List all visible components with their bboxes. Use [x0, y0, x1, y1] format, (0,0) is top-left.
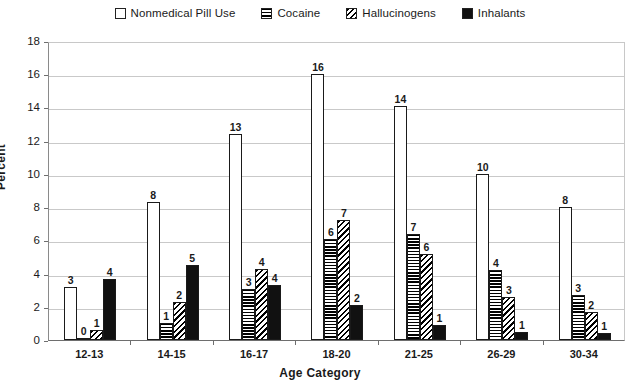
y-axis-title: Percent	[0, 144, 8, 190]
bar-value-label: 7	[410, 222, 416, 233]
legend-label: Cocaine	[277, 7, 320, 19]
bar-value-label: 1	[436, 313, 442, 324]
x-axis-tick-mark	[295, 340, 296, 345]
x-axis-title: Age Category	[0, 366, 640, 380]
bar-value-label: 4	[272, 273, 278, 284]
x-axis-tick-mark	[213, 340, 214, 345]
bar-value-label: 14	[395, 94, 407, 105]
legend-swatch-icon	[462, 8, 473, 19]
bar[interactable]: 4	[255, 269, 268, 340]
bar-value-label: 3	[246, 277, 252, 288]
bar-value-label: 8	[562, 195, 568, 206]
bar[interactable]: 1	[433, 325, 446, 340]
y-axis-tick-label: 2	[6, 302, 40, 314]
bar-value-label: 6	[328, 227, 334, 238]
bar-chart: Nonmedical Pill UseCocaineHallucinogensI…	[0, 0, 640, 391]
legend-entry[interactable]: Nonmedical Pill Use	[115, 7, 236, 19]
plot-area: 30148125133441667214761104318321	[48, 42, 625, 341]
legend-label: Inhalants	[478, 7, 526, 19]
x-axis-category-label: 14-15	[127, 348, 217, 360]
bar[interactable]: 1	[90, 330, 103, 340]
legend-entry[interactable]: Inhalants	[462, 7, 526, 19]
bar-group: 3014	[49, 43, 131, 340]
legend-label: Nonmedical Pill Use	[131, 7, 236, 19]
bar[interactable]: 8	[147, 202, 160, 340]
y-axis-tick-label: 6	[6, 235, 40, 247]
bar-value-label: 4	[493, 258, 499, 269]
bar[interactable]: 4	[489, 270, 502, 340]
bar-value-label: 7	[341, 208, 347, 219]
bar[interactable]: 16	[311, 74, 324, 340]
chart-legend: Nonmedical Pill UseCocaineHallucinogensI…	[0, 7, 640, 19]
bar-value-label: 3	[506, 285, 512, 296]
x-axis-tick-mark	[460, 340, 461, 345]
y-axis-tick-label: 4	[6, 269, 40, 281]
bar[interactable]: 3	[572, 295, 585, 340]
bar-group: 8125	[131, 43, 213, 340]
bar[interactable]: 1	[160, 323, 173, 340]
bar[interactable]: 2	[173, 302, 186, 340]
bar-value-label: 10	[477, 162, 489, 173]
bar[interactable]: 4	[268, 285, 281, 340]
bar-value-label: 1	[519, 320, 525, 331]
bar[interactable]: 6	[420, 254, 433, 340]
bar-value-label: 2	[588, 300, 594, 311]
bar-value-label: 0	[81, 326, 87, 337]
legend-swatch-icon	[115, 8, 126, 19]
bar[interactable]: 3	[242, 289, 255, 340]
legend-entry[interactable]: Cocaine	[261, 7, 320, 19]
bar-group: 14761	[379, 43, 461, 340]
bar-value-label: 2	[354, 293, 360, 304]
bar-value-label: 6	[423, 242, 429, 253]
y-axis-tick-label: 0	[6, 335, 40, 347]
bar[interactable]: 6	[324, 239, 337, 340]
bar-value-label: 3	[68, 275, 74, 286]
legend-swatch-icon	[261, 8, 272, 19]
bar[interactable]: 14	[394, 106, 407, 340]
bar-value-label: 1	[163, 311, 169, 322]
bar[interactable]: 8	[559, 207, 572, 340]
y-axis-tick-label: 8	[6, 202, 40, 214]
x-axis-category-label: 26-29	[456, 348, 546, 360]
x-axis-tick-mark	[543, 340, 544, 345]
x-axis-category-label: 18-20	[292, 348, 382, 360]
bar[interactable]: 1	[515, 332, 528, 340]
bar-group: 10431	[461, 43, 543, 340]
bar[interactable]: 7	[337, 220, 350, 340]
bar[interactable]: 3	[502, 297, 515, 340]
y-axis-tick-label: 16	[6, 69, 40, 81]
x-axis-category-label: 16-17	[209, 348, 299, 360]
bar-value-label: 13	[230, 122, 242, 133]
bar[interactable]: 4	[103, 279, 116, 340]
x-axis-category-label: 21-25	[374, 348, 464, 360]
bar[interactable]: 0	[77, 338, 90, 340]
bar-value-label: 8	[150, 190, 156, 201]
legend-swatch-icon	[346, 8, 357, 19]
bar[interactable]: 5	[186, 265, 199, 340]
y-axis-tick-label: 18	[6, 36, 40, 48]
bar-group: 13344	[214, 43, 296, 340]
bar[interactable]: 3	[64, 287, 77, 340]
bar-group: 8321	[544, 43, 626, 340]
y-axis-tick-mark	[44, 341, 48, 342]
bar[interactable]: 1	[598, 333, 611, 340]
bar-value-label: 1	[94, 318, 100, 329]
bar[interactable]: 2	[350, 305, 363, 340]
legend-entry[interactable]: Hallucinogens	[346, 7, 436, 19]
x-axis-tick-mark	[378, 340, 379, 345]
y-axis-tick-label: 12	[6, 136, 40, 148]
bar-value-label: 2	[176, 290, 182, 301]
bar-value-label: 16	[312, 62, 324, 73]
bar[interactable]: 13	[229, 134, 242, 340]
bar[interactable]: 7	[407, 234, 420, 340]
x-axis-category-label: 30-34	[539, 348, 629, 360]
bar[interactable]: 2	[585, 312, 598, 340]
bar-value-label: 5	[189, 253, 195, 264]
bar-value-label: 4	[107, 267, 113, 278]
legend-label: Hallucinogens	[362, 7, 436, 19]
bar-value-label: 1	[601, 321, 607, 332]
x-axis-tick-mark	[130, 340, 131, 345]
bar-value-label: 3	[575, 283, 581, 294]
bar[interactable]: 10	[476, 174, 489, 340]
x-axis-category-label: 12-13	[44, 348, 134, 360]
